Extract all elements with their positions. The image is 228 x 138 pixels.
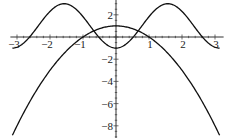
y-tick-label: 2 <box>108 9 114 21</box>
x-tick-label: −2 <box>41 38 53 50</box>
y-tick-label: −2 <box>101 53 113 65</box>
y-tick-label: −4 <box>101 75 113 87</box>
y-tick-label: −6 <box>101 98 113 110</box>
y-tick-label: −8 <box>101 120 113 132</box>
plot-area: −3−2−11232−2−4−6−8 <box>0 0 228 138</box>
x-tick-label: 2 <box>180 38 186 50</box>
